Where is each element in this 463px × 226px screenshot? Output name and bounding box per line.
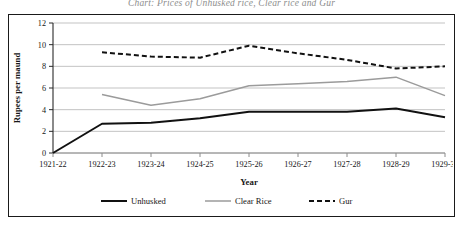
x-tick-label: 1927-28 (333, 160, 360, 169)
y-tick-label: 12 (38, 19, 46, 28)
y-axis-title: Rupees per maund (12, 53, 22, 124)
y-tick-label: 4 (42, 106, 46, 115)
series-line-gur (102, 46, 445, 69)
x-axis-title-text: Year (240, 177, 258, 187)
x-tick-label: 1922-23 (88, 160, 115, 169)
y-tick-label: 2 (42, 127, 46, 136)
x-tick-label: 1924-25 (186, 160, 213, 169)
x-axis-ticks: 1921-221922-231923-241924-251925-261926-… (39, 153, 453, 169)
y-tick-label: 8 (42, 62, 46, 71)
x-tick-label: 1921-22 (39, 160, 66, 169)
gridlines (53, 23, 445, 153)
y-axis-title-text: Rupees per maund (12, 53, 22, 124)
figure-title-clipped: Chart: Prices of Unhusked rice, Clear ri… (0, 0, 463, 10)
series-line-clear-rice (102, 77, 445, 105)
figure-container: Chart: Prices of Unhusked rice, Clear ri… (0, 0, 463, 226)
x-tick-label: 1923-24 (137, 160, 164, 169)
line-chart: 024681012 1921-221922-231923-241924-2519… (9, 15, 453, 215)
y-tick-label: 10 (38, 41, 46, 50)
x-tick-label: 1925-26 (235, 160, 262, 169)
y-tick-label: 6 (42, 84, 46, 93)
data-series-group (53, 46, 445, 153)
x-tick-label: 1926-27 (284, 160, 311, 169)
legend-label-clear-rice: Clear Rice (235, 196, 272, 206)
x-tick-label: 1929-30 (431, 160, 453, 169)
legend-label-gur: Gur (339, 196, 353, 206)
x-tick-label: 1928-29 (382, 160, 409, 169)
x-axis-title: Year (240, 177, 258, 187)
chart-frame: 024681012 1921-221922-231923-241924-2519… (8, 14, 455, 217)
series-line-unhusked (53, 109, 445, 153)
y-axis-ticks: 024681012 (38, 19, 53, 158)
chart-legend: UnhuskedClear RiceGur (101, 196, 353, 206)
y-tick-label: 0 (42, 149, 46, 158)
legend-label-unhusked: Unhusked (131, 196, 167, 206)
